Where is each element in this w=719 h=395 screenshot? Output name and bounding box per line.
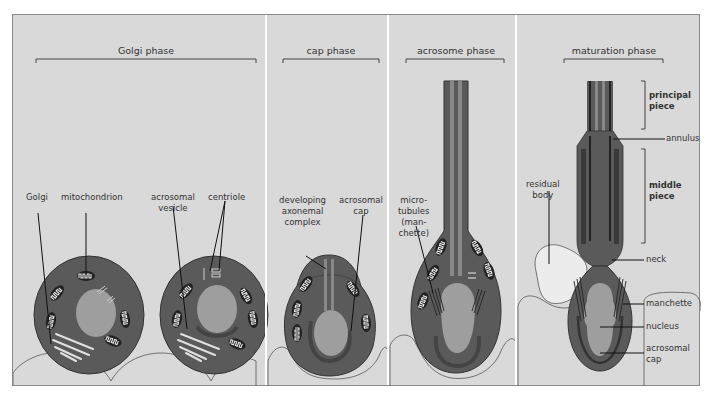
label-nucleus: nucleus (646, 321, 679, 332)
phase-title-maturation: maturation phase (572, 45, 656, 56)
label-manchette: manchette (646, 298, 692, 309)
phase-title-golgi: Golgi phase (118, 45, 174, 56)
label-annulus: annulus (666, 133, 700, 144)
golgi-cell-1 (34, 256, 144, 374)
label-developing-axonemal-complex: developing axonemal complex (279, 195, 326, 228)
panel-divider (387, 15, 389, 385)
label-acrosomal-cap: acrosomal cap (339, 195, 383, 217)
phase-brackets (36, 59, 663, 63)
label-principal-piece: principal piece (649, 90, 691, 112)
phase-title-cap: cap phase (307, 45, 356, 56)
label-middle-piece: middle piece (649, 180, 682, 202)
golgi-cell-2 (160, 256, 268, 374)
label-microtubules-manchette: micro- tubules (man- chette) (398, 195, 430, 239)
label-acrosomal-vesicle: acrosomal vesicle (151, 192, 195, 214)
diagram-frame: Golgi phase cap phase acrosome phase mat… (12, 14, 700, 386)
panel-divider (515, 15, 517, 385)
panel-divider (265, 15, 267, 385)
label-maturation-acrosomal-cap: acrosomal cap (646, 343, 690, 365)
phase-title-acrosome: acrosome phase (417, 45, 495, 56)
cap-cell (284, 255, 375, 376)
label-neck: neck (646, 254, 666, 265)
label-centriole: centriole (208, 192, 245, 203)
label-mitochondrion: mitochondrion (61, 192, 123, 203)
label-golgi: Golgi (26, 192, 48, 203)
label-residual-body: residual body (526, 179, 560, 201)
